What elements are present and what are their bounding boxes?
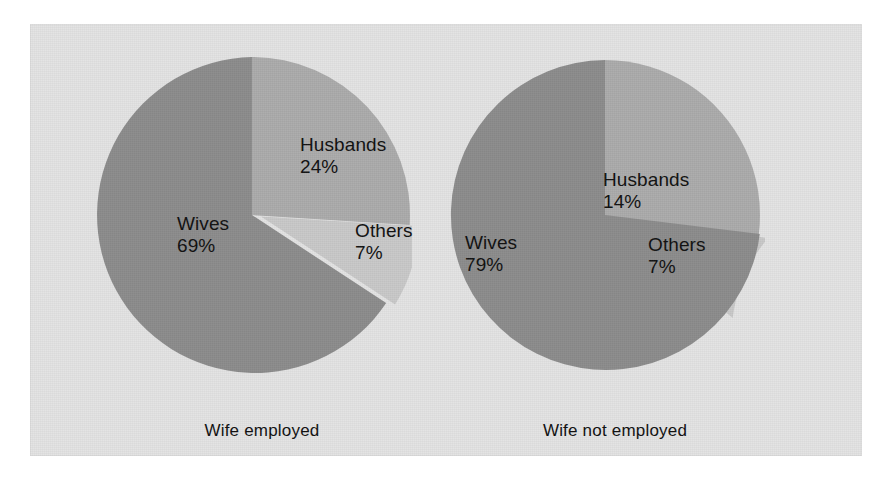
pie-label-wives-right-name: Wives — [465, 232, 517, 253]
pie-label-husbands-right: Husbands 14% — [603, 169, 689, 213]
pie-label-wives-left-name: Wives — [177, 213, 229, 234]
pie-svg-right — [445, 55, 765, 375]
pie-label-others-left-pct: 7% — [355, 242, 413, 264]
pie-caption-left: Wife employed — [92, 421, 432, 441]
pie-label-wives-right: Wives 79% — [465, 232, 517, 276]
pie-svg-left — [92, 55, 412, 375]
pie-label-others-left: Others 7% — [355, 220, 413, 264]
pie-label-others-right-pct: 7% — [648, 256, 706, 278]
pie-label-others-right-name: Others — [648, 234, 706, 255]
pie-label-wives-left-pct: 69% — [177, 235, 229, 257]
pie-label-husbands-right-name: Husbands — [603, 169, 689, 190]
pie-label-others-right: Others 7% — [648, 234, 706, 278]
pie-caption-right: Wife not employed — [445, 421, 785, 441]
pie-label-wives-left: Wives 69% — [177, 213, 229, 257]
figure-root: Husbands 24% Others 7% Wives 69% Wife em… — [0, 0, 891, 483]
pie-label-others-left-name: Others — [355, 220, 413, 241]
pie-label-husbands-left: Husbands 24% — [300, 134, 386, 178]
pie-graphic-right — [445, 55, 765, 375]
pie-chart-wife-employed: Husbands 24% Others 7% Wives 69% Wife em… — [92, 24, 432, 456]
pie-label-husbands-left-pct: 24% — [300, 156, 386, 178]
pie-label-wives-right-pct: 79% — [465, 254, 517, 276]
pie-label-husbands-left-name: Husbands — [300, 134, 386, 155]
figure-panel: Husbands 24% Others 7% Wives 69% Wife em… — [30, 24, 862, 456]
pie-label-husbands-right-pct: 14% — [603, 191, 689, 213]
pie-graphic-left — [92, 55, 412, 375]
pie-chart-wife-not-employed: Husbands 14% Others 7% Wives 79% Wife no… — [445, 24, 785, 456]
